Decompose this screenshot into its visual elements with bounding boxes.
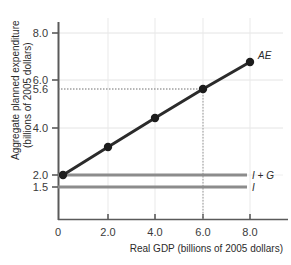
ae-point-2 [151, 114, 159, 122]
y-tick-label-4: 4.0 [33, 122, 48, 134]
x-tick-label-0: 0 [55, 226, 61, 238]
expenditure-line-chart: 8.0 6.0 5.6 4.0 2.0 1.5 0 2.0 4.0 6.0 8.… [0, 0, 291, 265]
ae-point-3 [199, 85, 207, 93]
x-tick-label-6: 6.0 [195, 226, 210, 238]
x-tick-label-4: 4.0 [147, 226, 162, 238]
ae-line-label: AE [257, 50, 272, 61]
y-tick-label-2: 2.0 [33, 169, 48, 181]
y-tick-label-8: 8.0 [33, 27, 48, 39]
x-axis-title: Real GDP (billions of 2005 dollars) [130, 243, 283, 254]
ae-point-0 [59, 171, 67, 179]
ae-point-1 [104, 143, 112, 151]
y-tick-label-5p6: 5.6 [33, 83, 48, 95]
x-tick-label-2: 2.0 [100, 226, 115, 238]
chart-figure: 8.0 6.0 5.6 4.0 2.0 1.5 0 2.0 4.0 6.0 8.… [0, 0, 291, 265]
ae-point-4 [246, 58, 254, 66]
y-tick-label-1p5: 1.5 [33, 181, 48, 193]
y-axis-title-line1: Aggregate planned expenditure [10, 20, 21, 160]
i-plus-g-line-label: I + G [252, 170, 274, 181]
x-tick-label-8: 8.0 [242, 226, 257, 238]
i-line-label: I [252, 182, 255, 193]
y-axis-title-line2: (billions of 2005 dollars) [22, 42, 33, 148]
